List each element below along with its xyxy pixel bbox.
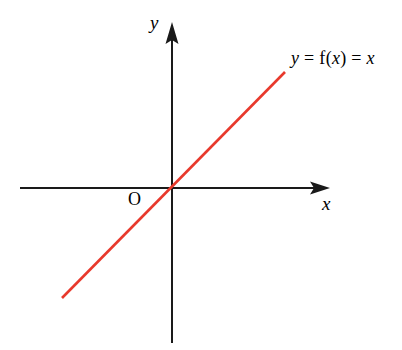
- equation-part-equals-1: =: [299, 48, 319, 68]
- equation-part-equals-2: =: [347, 48, 367, 68]
- equation-part-x-right: x: [367, 48, 375, 68]
- origin-label: O: [128, 190, 141, 208]
- function-equation-label: y = f(x) = x: [291, 49, 375, 67]
- x-axis-label: x: [322, 194, 330, 213]
- function-graph-figure: y x O y = f(x) = x: [0, 0, 402, 350]
- y-axis-label: y: [150, 13, 158, 32]
- equation-part-x-argument: x: [332, 48, 340, 68]
- function-line-y-equals-x: [62, 72, 285, 298]
